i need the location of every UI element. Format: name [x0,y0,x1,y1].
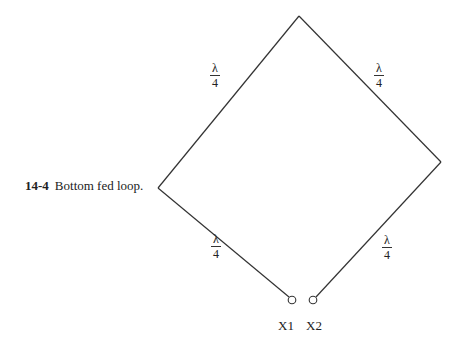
segment-upper-left [158,16,299,188]
fraction-numerator: λ [373,62,385,74]
figure-caption: 14-4Bottom fed loop. [25,178,143,194]
segment-upper-right [299,16,441,162]
fraction-denominator: 4 [373,77,385,89]
terminal-x1-icon [288,296,296,304]
label-upper-right: λ 4 [373,62,385,89]
fraction-denominator: 4 [210,248,222,260]
figure-number: 14-4 [25,178,49,193]
terminal-label-x2: X2 [306,318,322,334]
label-lower-right: λ 4 [381,234,393,261]
terminal-x2-icon [309,296,317,304]
loop-diagram [0,0,469,352]
fraction-denominator: 4 [381,249,393,261]
fraction-numerator: λ [381,234,393,246]
segment-lower-right [316,162,441,297]
segment-lower-left [158,188,289,297]
fraction-numerator: λ [209,62,221,74]
label-upper-left: λ 4 [209,62,221,89]
fraction-denominator: 4 [209,77,221,89]
fraction-numerator: λ [210,233,222,245]
label-lower-left: λ 4 [210,233,222,260]
terminal-label-x1: X1 [278,318,294,334]
figure-caption-text: Bottom fed loop. [55,178,143,193]
